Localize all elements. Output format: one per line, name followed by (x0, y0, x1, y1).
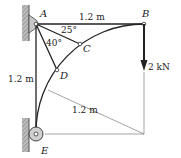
dimension-AE: 1.2 m (8, 74, 34, 84)
angle-40: 40° (46, 38, 62, 48)
joint-A (34, 22, 38, 26)
label-A: A (39, 8, 47, 19)
lower-wall-support (22, 118, 29, 152)
dimension-radius: 1.2 m (72, 105, 98, 115)
load-label: 2 kN (148, 62, 170, 72)
label-C: C (83, 43, 91, 54)
load-arrow-icon (141, 24, 148, 71)
dimension-AB: 1.2 m (79, 12, 105, 22)
angle-25: 25° (61, 25, 77, 35)
joint-D (55, 68, 59, 72)
joint-C (78, 42, 82, 46)
label-D: D (59, 70, 68, 81)
reference-lines (45, 72, 144, 134)
roller-support-E (29, 127, 43, 141)
frame-diagram: A B C D E 1.2 m 1.2 m 1.2 m 25° 40° 2 kN (0, 0, 181, 158)
label-B: B (141, 8, 149, 19)
label-E: E (40, 145, 49, 156)
